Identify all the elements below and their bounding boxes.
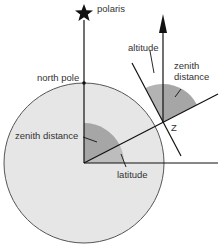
- zenith-distance-center-label: zenith distance: [15, 130, 78, 141]
- north-pole-dot: [82, 81, 86, 85]
- zenith-distance-top-label-line1: zenith: [174, 60, 199, 71]
- star-icon: [75, 4, 93, 21]
- latitude-label: latitude: [117, 169, 148, 180]
- altitude-leader: [150, 51, 154, 73]
- zenith-distance-top-label-line2: distance: [174, 71, 209, 82]
- arrow-up-icon: [159, 14, 167, 33]
- altitude-label: altitude: [128, 42, 159, 53]
- north-pole-label: north pole: [37, 72, 79, 83]
- polaris-label: polaris: [97, 3, 125, 14]
- diagram-canvas: polaris north pole altitude zenith dista…: [0, 0, 224, 246]
- z-point-label: Z: [171, 122, 177, 133]
